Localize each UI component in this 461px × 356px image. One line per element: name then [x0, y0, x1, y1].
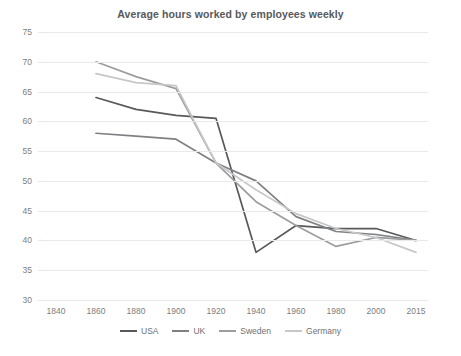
x-tick-label: 1900	[167, 306, 186, 316]
legend-swatch	[285, 330, 302, 332]
legend-label: UK	[193, 326, 205, 336]
y-tick-label: 35	[4, 265, 32, 275]
y-tick-label: 45	[4, 206, 32, 216]
x-tick-label: 1940	[247, 306, 266, 316]
y-tick-label: 40	[4, 235, 32, 245]
x-tick-label: 1960	[287, 306, 306, 316]
y-tick-label: 60	[4, 116, 32, 126]
x-tick-label: 1980	[327, 306, 346, 316]
chart-container: Average hours worked by employees weekly…	[0, 0, 461, 356]
x-tick-label: 1920	[207, 306, 226, 316]
legend-swatch	[172, 330, 189, 332]
legend-swatch	[219, 330, 236, 332]
x-tick-label: 1860	[87, 306, 106, 316]
x-tick-label: 2015	[407, 306, 426, 316]
legend-label: Sweden	[240, 326, 271, 336]
chart-title: Average hours worked by employees weekly	[0, 8, 461, 20]
legend-label: USA	[141, 326, 158, 336]
y-axis-tick-labels: 30354045505560657075	[0, 32, 461, 300]
x-tick-label: 1840	[47, 306, 66, 316]
x-tick-label: 1880	[127, 306, 146, 316]
chart-legend: USAUKSwedenGermany	[0, 326, 461, 336]
legend-item-usa[interactable]: USA	[120, 326, 158, 336]
legend-label: Germany	[306, 326, 341, 336]
legend-swatch	[120, 330, 137, 332]
legend-item-germany[interactable]: Germany	[285, 326, 341, 336]
y-tick-label: 70	[4, 57, 32, 67]
legend-item-sweden[interactable]: Sweden	[219, 326, 271, 336]
x-tick-label: 2000	[367, 306, 386, 316]
y-tick-label: 75	[4, 27, 32, 37]
y-tick-label: 55	[4, 146, 32, 156]
y-tick-label: 50	[4, 176, 32, 186]
legend-item-uk[interactable]: UK	[172, 326, 205, 336]
x-axis-tick-labels: 1840186018801900192019401960198020002015	[0, 300, 461, 320]
y-tick-label: 65	[4, 87, 32, 97]
